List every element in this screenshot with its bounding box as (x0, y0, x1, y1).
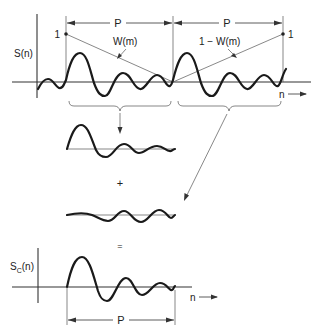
x-axis-label: n (279, 89, 285, 100)
period-label: P (223, 17, 230, 29)
window-label: W(m) (113, 36, 137, 47)
period-label: P (114, 17, 121, 29)
y-axis-label: S(n) (14, 48, 33, 59)
equals-operator: = (117, 241, 122, 251)
period-dimension-left: P (67, 17, 172, 29)
signal-waveform (38, 53, 286, 96)
brace-left (69, 101, 171, 111)
top-signal-panel: P P 1 1 W(m) 1 − W(m) S(n) n (12, 14, 311, 111)
y-axis-label: SC(n) (10, 261, 34, 274)
combined-signal-waveform (67, 257, 175, 301)
brace-right (178, 101, 281, 111)
period-dimension: P (68, 314, 174, 326)
complement-window-label: 1 − W(m) (199, 36, 240, 47)
x-axis-label: n (190, 292, 196, 303)
right-point-marker (281, 32, 285, 36)
period-label: P (117, 314, 124, 326)
overlap-add-diagram: P P 1 1 W(m) 1 − W(m) S(n) n (0, 0, 321, 329)
period-dimension-right: P (174, 17, 282, 29)
plus-operator: + (117, 177, 123, 189)
left-point-label: 1 (54, 29, 60, 40)
arrow-to-right-portion (186, 114, 227, 197)
bottom-signal-panel: SC(n) P n (10, 248, 218, 326)
windowed-right-segment (66, 210, 175, 222)
left-point-marker (64, 32, 68, 36)
right-point-label: 1 (288, 29, 294, 40)
